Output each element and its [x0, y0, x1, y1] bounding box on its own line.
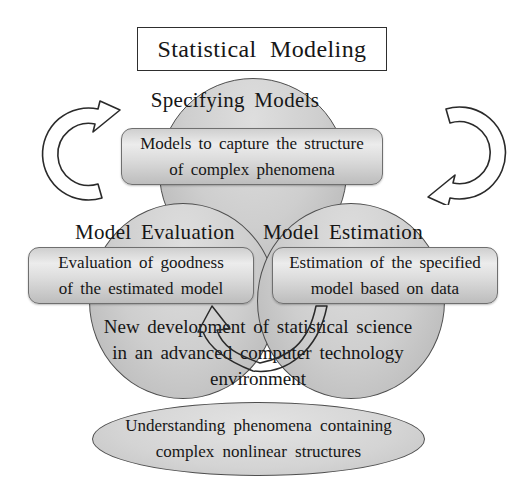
diagram-title: Statistical Modeling [158, 36, 367, 63]
title-box: Statistical Modeling [137, 27, 387, 71]
model-estimation-label: Model Estimation [243, 220, 443, 245]
specifying-models-label: Specifying Models [110, 88, 360, 113]
outcome-text: Understanding phenomena containing compl… [125, 413, 392, 465]
curved-cycle-down-arrow-icon [398, 95, 508, 205]
diagram-canvas: Statistical Modeling Specifying Models M… [0, 0, 526, 498]
evaluation-detail-box: Evaluation of goodness of the estimated … [28, 247, 254, 304]
evaluation-detail-text: Evaluation of goodness of the estimated … [58, 250, 224, 302]
estimation-detail-text: Estimation of the specified model based … [289, 250, 481, 302]
u-turn-up-arrow-icon [190, 295, 335, 385]
outcome-ellipse: Understanding phenomena containing compl… [92, 402, 425, 476]
specifying-detail-text: Models to capture the structure of compl… [140, 131, 364, 183]
specifying-detail-box: Models to capture the structure of compl… [121, 128, 383, 185]
model-evaluation-label: Model Evaluation [55, 220, 255, 245]
estimation-detail-box: Estimation of the specified model based … [272, 247, 498, 304]
